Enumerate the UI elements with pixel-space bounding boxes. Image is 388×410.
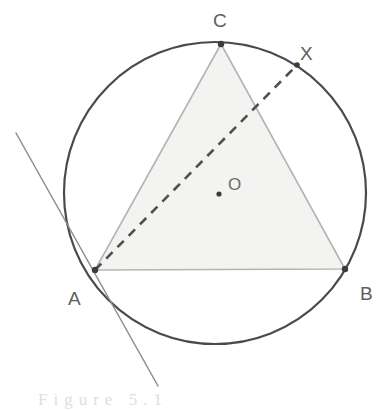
point-b [342, 266, 348, 272]
label-a: A [68, 288, 81, 309]
point-a [92, 267, 98, 273]
point-x [294, 62, 300, 68]
inscribed-triangle-abc [95, 44, 345, 270]
point-o-center [216, 191, 221, 196]
figure-caption: Figure 5.1 [38, 390, 168, 410]
label-c: C [213, 10, 227, 31]
point-c [218, 41, 224, 47]
label-b: B [360, 283, 373, 304]
label-o: O [228, 175, 241, 194]
label-x: X [300, 43, 313, 64]
